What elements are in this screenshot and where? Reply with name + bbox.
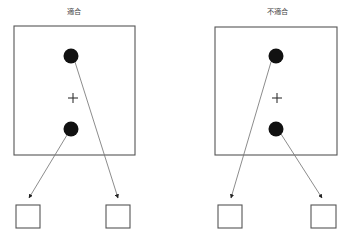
panel-title-compatible: 適合: [67, 7, 81, 16]
stimulus-frame-compatible: [14, 26, 135, 155]
stimulus-dot-top-compatible: [64, 49, 79, 64]
diagram-canvas: 適合 不適合: [0, 0, 347, 235]
response-box-right-compatible[interactable]: [106, 205, 130, 228]
panel-compatible: 適合: [14, 7, 135, 228]
response-box-left-compatible[interactable]: [16, 205, 40, 228]
stimulus-dot-bottom-compatible: [64, 122, 79, 137]
response-box-right-incompatible[interactable]: [311, 205, 336, 228]
panel-incompatible: 不適合: [215, 7, 337, 228]
stimulus-dot-bottom-incompatible: [269, 122, 284, 137]
response-box-left-incompatible[interactable]: [218, 205, 242, 228]
panel-title-incompatible: 不適合: [267, 7, 288, 16]
figure-root: 適合 不適合: [0, 0, 347, 235]
stimulus-dot-top-incompatible: [269, 49, 284, 64]
